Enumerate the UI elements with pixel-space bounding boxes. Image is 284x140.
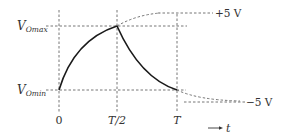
x-label-period: T <box>173 114 182 127</box>
time-arrowhead-icon <box>219 126 223 130</box>
minus5v-label: −5 V <box>246 96 273 108</box>
discharging-curve <box>117 26 177 90</box>
x-label-zero: 0 <box>56 114 63 127</box>
x-label-half-period: T/2 <box>108 114 126 127</box>
charge-continuation-curve <box>117 13 160 26</box>
vomax-label: VOmax <box>17 19 48 34</box>
vomin-label: VOmin <box>17 83 46 98</box>
time-axis-label: t <box>226 122 231 135</box>
plus5v-label: +5 V <box>215 7 242 19</box>
charging-curve <box>59 26 117 90</box>
discharge-continuation-curve <box>177 90 240 101</box>
waveform-diagram: VOmax VOmin 0 T/2 T +5 V −5 V t <box>0 0 284 140</box>
